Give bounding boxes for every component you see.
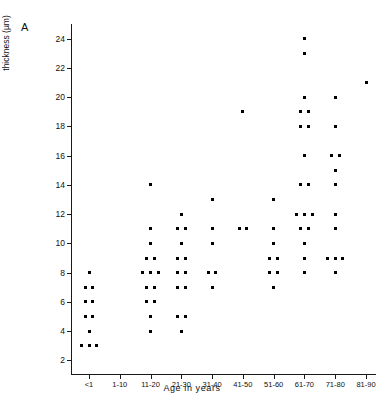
- data-point: [95, 344, 98, 347]
- y-tick: [67, 39, 71, 40]
- data-point: [176, 227, 179, 230]
- data-point: [184, 227, 187, 230]
- data-point: [149, 183, 152, 186]
- data-point: [91, 286, 94, 289]
- x-axis-title: Age in years: [0, 383, 384, 393]
- y-axis-line: [71, 24, 72, 375]
- data-point: [311, 213, 314, 216]
- x-tick: [120, 375, 121, 379]
- y-tick: [67, 360, 71, 361]
- data-point: [272, 286, 275, 289]
- y-tick: [67, 243, 71, 244]
- scatter-plot-figure: A Mean Capsule thickness (µm) 2468101214…: [0, 0, 384, 415]
- data-point: [184, 257, 187, 260]
- data-point: [176, 271, 179, 274]
- data-point: [84, 300, 87, 303]
- x-axis-line: [71, 374, 376, 375]
- data-point: [299, 110, 302, 113]
- data-point: [211, 227, 214, 230]
- data-point: [211, 198, 214, 201]
- data-point: [184, 286, 187, 289]
- y-tick: [67, 97, 71, 98]
- y-tick-label: 24: [45, 35, 65, 43]
- data-point: [341, 257, 344, 260]
- y-tick: [67, 185, 71, 186]
- panel-letter: A: [21, 21, 28, 33]
- data-point: [91, 315, 94, 318]
- data-point: [303, 271, 306, 274]
- y-tick: [67, 126, 71, 127]
- data-point: [141, 271, 144, 274]
- data-point: [184, 315, 187, 318]
- data-point: [303, 52, 306, 55]
- y-tick-label: 18: [45, 122, 65, 130]
- y-tick-label: 14: [45, 181, 65, 189]
- data-point: [334, 169, 337, 172]
- data-point: [330, 154, 333, 157]
- x-tick: [243, 375, 244, 379]
- x-tick: [366, 375, 367, 379]
- data-point: [245, 227, 248, 230]
- data-point: [238, 227, 241, 230]
- data-point: [180, 213, 183, 216]
- data-point: [303, 37, 306, 40]
- data-point: [88, 271, 91, 274]
- data-point: [326, 257, 329, 260]
- data-point: [153, 300, 156, 303]
- y-tick-label: 8: [45, 269, 65, 277]
- data-point: [211, 242, 214, 245]
- data-point: [268, 271, 271, 274]
- data-point: [149, 242, 152, 245]
- x-tick: [304, 375, 305, 379]
- data-point: [149, 315, 152, 318]
- data-point: [307, 125, 310, 128]
- data-point: [334, 125, 337, 128]
- data-point: [272, 198, 275, 201]
- data-point: [334, 183, 337, 186]
- data-point: [303, 213, 306, 216]
- y-axis-title-line2: thickness (µm): [0, 0, 12, 118]
- data-point: [334, 227, 337, 230]
- data-point: [176, 286, 179, 289]
- data-point: [207, 271, 210, 274]
- y-tick-label: 6: [45, 298, 65, 306]
- y-tick: [67, 273, 71, 274]
- data-point: [276, 271, 279, 274]
- y-tick-label: 10: [45, 239, 65, 247]
- y-tick-label: 2: [45, 356, 65, 364]
- x-tick: [335, 375, 336, 379]
- y-tick: [67, 302, 71, 303]
- data-point: [241, 110, 244, 113]
- data-point: [88, 330, 91, 333]
- data-point: [303, 96, 306, 99]
- data-point: [153, 286, 156, 289]
- data-point: [145, 257, 148, 260]
- data-point: [295, 213, 298, 216]
- data-point: [80, 344, 83, 347]
- data-point: [307, 227, 310, 230]
- data-point: [149, 227, 152, 230]
- data-point: [303, 257, 306, 260]
- data-point: [299, 125, 302, 128]
- data-point: [365, 81, 368, 84]
- data-point: [157, 271, 160, 274]
- y-tick-label: 12: [45, 210, 65, 218]
- data-point: [334, 257, 337, 260]
- data-point: [176, 315, 179, 318]
- data-point: [334, 213, 337, 216]
- data-point: [334, 96, 337, 99]
- data-point: [303, 154, 306, 157]
- x-tick: [89, 375, 90, 379]
- y-axis-title: Mean Capsule thickness (µm): [0, 0, 12, 118]
- data-point: [149, 330, 152, 333]
- y-tick-label: 20: [45, 93, 65, 101]
- data-point: [91, 300, 94, 303]
- y-tick: [67, 214, 71, 215]
- data-point: [299, 183, 302, 186]
- data-point: [214, 271, 217, 274]
- data-point: [180, 242, 183, 245]
- data-point: [303, 242, 306, 245]
- data-point: [276, 257, 279, 260]
- x-tick: [212, 375, 213, 379]
- plot-area: 24681012141618202224 <11-1011-2021-3031-…: [71, 24, 376, 375]
